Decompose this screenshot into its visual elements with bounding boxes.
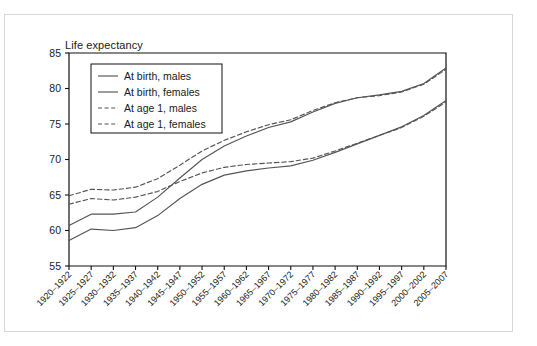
svg-text:60: 60	[49, 224, 61, 236]
svg-text:80: 80	[49, 82, 61, 94]
legend-label-0: At birth, males	[124, 70, 191, 82]
legend-label-1: At birth, females	[124, 86, 200, 98]
legend-label-3: At age 1, females	[124, 118, 206, 130]
x-axis-ticks: 1920–19221925–19271930–19321935–19371940…	[34, 266, 450, 308]
svg-text:65: 65	[49, 189, 61, 201]
line-chart: 55606570758085 1920–19221925–19271930–19…	[5, 15, 514, 333]
figure-panel: Life expectancy 55606570758085 1920–1922…	[4, 14, 513, 332]
legend-label-2: At age 1, males	[124, 102, 197, 114]
svg-text:75: 75	[49, 118, 61, 130]
svg-text:70: 70	[49, 153, 61, 165]
svg-text:55: 55	[49, 260, 61, 272]
y-axis-ticks: 55606570758085	[49, 47, 69, 272]
svg-text:85: 85	[49, 47, 61, 59]
chart-legend: At birth, malesAt birth, femalesAt age 1…	[91, 64, 222, 133]
